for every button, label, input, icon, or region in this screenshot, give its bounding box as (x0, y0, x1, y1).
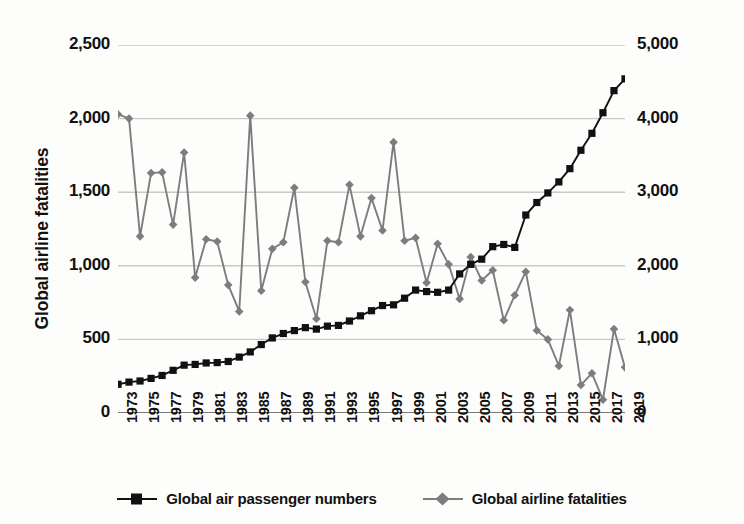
plot-area (118, 45, 625, 413)
legend-label-fatalities: Global airline fatalities (472, 490, 627, 507)
y-axis-right-tick: 5,000 (637, 34, 709, 54)
y-axis-left-tick: 1,000 (38, 255, 110, 275)
y-axis-left-tick: 0 (38, 402, 110, 422)
y-axis-left-tick: 1,500 (38, 181, 110, 201)
y-axis-right-tick: 3,000 (637, 181, 709, 201)
y-axis-right-tick: 2,000 (637, 255, 709, 275)
y-axis-left-tick: 2,500 (38, 34, 110, 54)
chart-legend: Global air passenger numbers Global airl… (0, 490, 744, 507)
legend-label-passengers: Global air passenger numbers (166, 490, 376, 507)
cutoff-title-strip (0, 0, 744, 12)
y-axis-right-tick: 4,000 (637, 108, 709, 128)
diamond-marker-icon (423, 492, 463, 506)
y-axis-left-tick: 500 (38, 328, 110, 348)
y-axis-right-tick: 1,000 (637, 328, 709, 348)
plot-svg (118, 45, 625, 413)
legend-item-passengers[interactable]: Global air passenger numbers (117, 490, 376, 507)
legend-item-fatalities[interactable]: Global airline fatalities (423, 490, 627, 507)
chart-container: Global airline fatalities Global air pas… (0, 0, 744, 524)
y-axis-left-tick: 2,000 (38, 108, 110, 128)
square-marker-icon (117, 492, 157, 506)
y-axis-right-tick: 0 (637, 402, 709, 422)
